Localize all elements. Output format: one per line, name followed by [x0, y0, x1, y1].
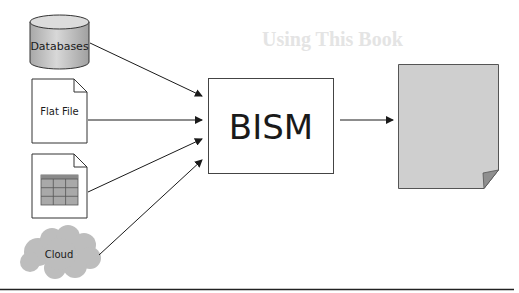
- arrow-cloud-to-bism: [99, 160, 202, 255]
- cloud-icon: Cloud: [20, 225, 101, 279]
- spreadsheet-document-icon: [32, 154, 87, 218]
- diagram-canvas: Databases Flat File: [0, 0, 519, 293]
- arrow-spreadsheet-to-bism: [88, 139, 202, 192]
- databases-cylinder-icon: Databases: [30, 15, 89, 69]
- output-document-icon: [399, 65, 499, 189]
- cloud-label: Cloud: [45, 249, 74, 260]
- arrow-databases-to-bism: [90, 43, 202, 96]
- table-grid-icon: [41, 175, 78, 205]
- bism-label: BISM: [229, 107, 313, 147]
- flat-file-label: Flat File: [40, 106, 79, 117]
- databases-label: Databases: [30, 40, 88, 53]
- bism-box: BISM: [209, 79, 334, 174]
- flat-file-document-icon: Flat File: [32, 79, 87, 143]
